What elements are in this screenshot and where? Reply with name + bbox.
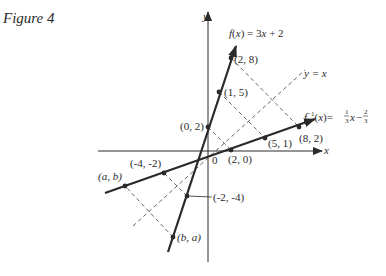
svg-text:f(x) = 3x + 2: f(x) = 3x + 2 (229, 27, 284, 40)
point-label-neg4-neg2: (-4, -2) (130, 157, 161, 170)
inverse-function-graph: x y 0 y = x f(x) = 3x + 2 f−1(x)= 1 3 x … (0, 0, 386, 276)
svg-text:−: − (356, 111, 362, 123)
point-label-1-5: (1, 5) (224, 86, 248, 99)
svg-text:3: 3 (345, 117, 349, 125)
x-axis-label: x (323, 144, 329, 156)
f-label: f(x) = 3x + 2 (229, 27, 284, 40)
point-label-5-1: (5, 1) (268, 137, 292, 150)
point-label-2-8: (2, 8) (234, 53, 258, 66)
point-label-8-2: (8, 2) (299, 132, 323, 145)
f-inverse-label: f−1(x)= 1 3 x − 2 3 (304, 108, 368, 125)
y-axis-label: y (202, 10, 208, 22)
svg-text:2: 2 (364, 108, 368, 116)
point-label-2-0: (2, 0) (228, 153, 252, 166)
point-label-0-2: (0, 2) (180, 120, 204, 133)
svg-text:3: 3 (364, 117, 368, 125)
svg-text:1: 1 (345, 108, 349, 116)
f-inverse-line (105, 119, 315, 193)
identity-label: y = x (303, 67, 327, 79)
point-label-b-a: (b, a) (177, 231, 201, 244)
point-label-a-b: (a, b) (98, 170, 122, 183)
svg-text:x: x (349, 111, 355, 123)
point-label-neg2-neg4: (-2, -4) (213, 191, 244, 204)
f-line (168, 46, 236, 252)
